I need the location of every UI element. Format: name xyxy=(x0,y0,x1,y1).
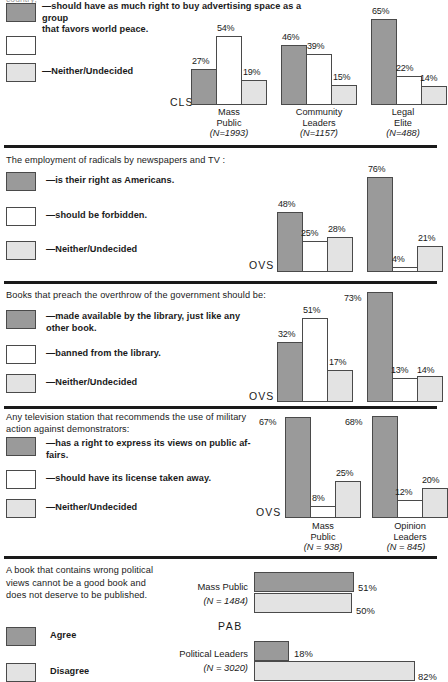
legend-label-light-s3: —Neither/Undecided xyxy=(46,377,296,389)
value-s2-g1-light: 28% xyxy=(328,224,345,234)
bar-s4-g1-dark xyxy=(285,417,311,518)
value-s1-g1-dark: 27% xyxy=(192,56,209,66)
bar-s3-g2-white xyxy=(392,378,418,402)
bar-s3-g1-light xyxy=(327,370,353,402)
group-name-s1-g2: Community Leaders xyxy=(281,107,357,128)
legend-label-dark-s2: —is their right as Americans. xyxy=(46,175,296,187)
legend-swatch-dark-s3 xyxy=(6,310,36,329)
bar-s1-g2-light xyxy=(331,85,357,105)
group-name-s1-g3: Legal Elite xyxy=(371,107,435,128)
hbar-mass-public-agree xyxy=(254,572,354,592)
legend-swatch-dark-s2 xyxy=(6,172,36,191)
question-text-s5: A book that contains wrong political vie… xyxy=(6,564,166,602)
bar-s1-g3-dark xyxy=(371,19,397,105)
group-name-s4-g2: Opinion Leaders xyxy=(372,521,448,542)
question-text-s2: The employment of radicals by newspapers… xyxy=(6,155,296,167)
bar-s3-g2-light xyxy=(417,376,443,402)
section-divider-3 xyxy=(4,406,437,409)
legend-swatch-dark-s5 xyxy=(6,627,36,646)
group-n-s4-g1: (N = 938) xyxy=(285,542,361,552)
group-n-s1-g3: (N=488) xyxy=(366,128,440,138)
hbar-political-leaders-agree xyxy=(254,641,289,661)
hvalue-mass-public-agree: 51% xyxy=(358,582,377,593)
bar-s1-g1-light xyxy=(241,80,267,105)
question-text-s4: Any television station that recommends t… xyxy=(6,412,251,435)
value-s4-g1-light: 25% xyxy=(336,468,353,478)
section-divider-4 xyxy=(4,556,437,559)
question-text-s3: Books that preach the overthrow of the g… xyxy=(6,290,306,302)
bar-s1-g3-white xyxy=(396,76,422,105)
hgroup-name-political-leaders: Political Leaders xyxy=(140,648,248,659)
bar-s4-g2-white xyxy=(397,500,423,518)
group-n-s1-g1: (N=1993) xyxy=(191,128,267,138)
bar-s2-g1-dark xyxy=(277,212,303,272)
bar-s3-g1-dark xyxy=(277,342,303,402)
hbar-mass-public-disagree xyxy=(254,593,352,613)
bar-s4-g1-white xyxy=(310,506,336,518)
axis-tag-ovs-s4: OVS xyxy=(256,506,281,518)
group-name-s1-g1: Mass Public xyxy=(191,107,267,128)
legend-swatch-dark-s4 xyxy=(6,437,36,456)
value-s4-g2-white: 12% xyxy=(395,487,412,497)
group-name-s4-g1: Mass Public xyxy=(285,521,361,542)
value-s2-g2-white: 4% xyxy=(392,254,405,264)
legend-swatch-light-s1 xyxy=(6,63,36,82)
value-s1-g2-dark: 46% xyxy=(282,32,299,42)
axis-tag-ovs-s2: OVS xyxy=(249,259,274,271)
value-s3-g2-dark: 73% xyxy=(344,293,361,303)
value-s2-g1-white: 25% xyxy=(301,228,318,238)
value-s1-g2-light: 15% xyxy=(333,72,350,82)
legend-label-agree-s5: Agree xyxy=(50,630,76,642)
legend-label-disagree-s5: Disagree xyxy=(50,666,89,678)
legend-label-white-s3: —banned from the library. xyxy=(46,348,296,360)
legend-label-light-s1: —Neither/Undecided xyxy=(42,66,312,78)
bar-s1-g2-white xyxy=(306,54,332,105)
bar-s1-g3-light xyxy=(421,86,447,105)
value-s3-g1-dark: 32% xyxy=(278,329,295,339)
bar-s4-g2-light xyxy=(422,488,448,518)
group-n-s4-g2: (N = 845) xyxy=(368,542,444,552)
value-s2-g2-light: 21% xyxy=(418,233,435,243)
legend-swatch-white-s3 xyxy=(6,345,36,364)
section-divider-2 xyxy=(4,281,437,284)
axis-tag-ovs-s3: OVS xyxy=(249,390,274,402)
section-divider-1 xyxy=(4,145,437,148)
legend-label-light-s2: —Neither/Undecided xyxy=(46,244,296,256)
legend-label-dark-s1: —should have as much right to buy advert… xyxy=(42,1,312,36)
group-n-s1-g2: (N=1157) xyxy=(281,128,357,138)
value-s1-g2-white: 39% xyxy=(307,41,324,51)
legend-swatch-white-s2 xyxy=(6,207,36,226)
value-s1-g1-white: 54% xyxy=(217,23,234,33)
legend-swatch-light-s4 xyxy=(6,499,36,518)
bar-s2-g2-dark xyxy=(367,177,393,272)
value-s1-g3-white: 22% xyxy=(396,63,413,73)
value-s3-g1-white: 51% xyxy=(303,305,320,315)
hgroup-n-political-leaders: (N = 3020) xyxy=(140,662,248,673)
bar-s1-g1-white xyxy=(216,36,242,105)
legend-label-dark-s4: —has a right to express its views on pub… xyxy=(46,438,261,461)
legend-label-light-s4: —Neither/Undecided xyxy=(46,502,261,514)
hvalue-mass-public-disagree: 50% xyxy=(356,605,375,616)
bar-s2-g2-light xyxy=(417,246,443,272)
bar-s1-g1-dark xyxy=(191,69,217,105)
legend-label-white-s4: —should have its license taken away. xyxy=(46,473,261,485)
bar-s2-g1-light xyxy=(327,237,353,272)
value-s3-g1-light: 17% xyxy=(329,357,346,367)
value-s4-g2-dark: 68% xyxy=(345,417,362,427)
hvalue-political-leaders-disagree: 82% xyxy=(418,671,437,682)
legend-swatch-light-s2 xyxy=(6,241,36,260)
value-s4-g1-white: 8% xyxy=(312,493,325,503)
hgroup-n-mass-public: (N = 1484) xyxy=(160,595,248,606)
legend-swatch-light-s5 xyxy=(6,663,36,682)
axis-tag-cls: CLS xyxy=(170,96,193,108)
value-s2-g2-dark: 76% xyxy=(368,164,385,174)
value-s4-g1-dark: 67% xyxy=(259,417,276,427)
legend-label-white-s2: —should be forbidden. xyxy=(46,210,296,222)
hgroup-name-mass-public: Mass Public xyxy=(160,581,248,592)
value-s4-g2-light: 20% xyxy=(422,475,439,485)
bar-s4-g2-dark xyxy=(372,416,398,518)
value-s3-g2-white: 13% xyxy=(391,365,408,375)
value-s1-g3-dark: 65% xyxy=(372,6,389,16)
axis-tag-pab: PAB xyxy=(218,620,243,632)
value-s3-g2-light: 14% xyxy=(417,365,434,375)
